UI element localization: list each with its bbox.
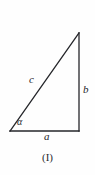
figure-caption: (I) [0, 152, 95, 163]
label-angle-alpha: α [17, 117, 22, 127]
figure-container: c b a α (I) [0, 0, 95, 175]
label-hypotenuse-c: c [29, 74, 34, 85]
right-triangle-graphic [0, 0, 95, 175]
label-horizontal-leg-a: a [44, 131, 50, 142]
label-vertical-leg-b: b [83, 84, 89, 95]
